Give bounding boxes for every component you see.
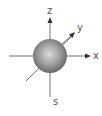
x-arrow-icon bbox=[85, 54, 91, 59]
s-orbital-sphere bbox=[33, 39, 67, 73]
x-axis-label: x bbox=[93, 51, 99, 61]
y-axis-label: y bbox=[77, 23, 83, 33]
orbital-label: s bbox=[53, 97, 58, 107]
z-axis-label: z bbox=[47, 6, 52, 16]
z-arrow-icon bbox=[48, 17, 53, 23]
s-orbital-diagram bbox=[0, 0, 102, 116]
